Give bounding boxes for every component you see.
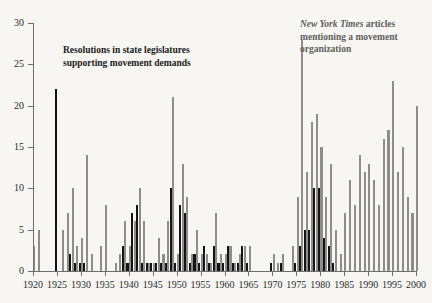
nyt-annotation: New York Times articles mentioning a mov…: [300, 18, 428, 56]
y-tick-label-5: 5: [0, 225, 24, 235]
bar-nyt_articles-1944: [148, 263, 150, 271]
bar-nyt_articles-1938: [119, 254, 121, 271]
y-tick-10: [28, 188, 33, 189]
bar-nyt_articles-1987: [354, 205, 356, 271]
y-tick-5: [28, 230, 33, 231]
bar-nyt_articles-1958: [215, 213, 217, 271]
bar-nyt_articles-1991: [373, 180, 375, 271]
x-tick-1965: [248, 271, 249, 276]
bar-nyt_articles-1959: [220, 254, 222, 271]
bar-nyt_articles-2000: [416, 106, 418, 271]
bar-nyt_articles-1941: [134, 221, 136, 271]
bar-nyt_articles-1999: [411, 213, 413, 271]
bar-nyt_articles-1970: [273, 254, 275, 271]
x-tick-1970: [272, 271, 273, 276]
x-tick-1980: [320, 271, 321, 276]
bar-nyt_articles-1964: [244, 246, 246, 271]
x-tick-1995: [392, 271, 393, 276]
y-tick-label-20: 20: [0, 101, 24, 111]
bar-nyt_articles-1956: [206, 254, 208, 271]
bar-nyt_articles-1928: [72, 188, 74, 271]
x-tick-1950: [177, 271, 178, 276]
bar-nyt_articles-1962: [234, 263, 236, 271]
bar-nyt_articles-1947: [162, 254, 164, 271]
y-tick-label-25: 25: [0, 59, 24, 69]
bar-nyt_articles-1980: [320, 147, 322, 271]
bar-nyt_articles-1996: [397, 172, 399, 271]
resolutions-annotation: Resolutions in state legislatures suppor…: [63, 44, 195, 69]
bar-nyt_articles-1943: [143, 221, 145, 271]
bar-nyt_articles-1989: [364, 172, 366, 271]
y-tick-label-10: 10: [0, 183, 24, 193]
bar-nyt_articles-1935: [105, 205, 107, 271]
x-tick-1955: [201, 271, 202, 276]
bar-nyt_articles-1988: [359, 155, 361, 271]
bar-nyt_articles-1995: [392, 81, 394, 271]
bar-nyt_articles-1926: [62, 230, 64, 271]
bar-nyt_articles-1984: [340, 254, 342, 271]
bar-nyt_articles-1979: [316, 114, 318, 271]
bar-nyt_articles-1929: [76, 246, 78, 271]
y-tick-label-30: 30: [0, 18, 24, 28]
bar-nyt_articles-1981: [325, 197, 327, 271]
bar-nyt_articles-1983: [335, 230, 337, 271]
bar-nyt_articles-1951: [182, 164, 184, 271]
y-tick-30: [28, 23, 33, 24]
x-tick-1920: [33, 271, 34, 276]
bar-nyt_articles-1982: [330, 164, 332, 271]
bar-nyt_articles-1957: [210, 263, 212, 271]
bar-nyt_articles-1954: [196, 230, 198, 271]
bar-nyt_articles-1952: [186, 197, 188, 271]
nyt-annotation-title: New York Times: [300, 19, 363, 29]
y-axis-line: [33, 23, 34, 272]
x-tick-label-2000: 2000: [396, 279, 432, 290]
bar-nyt_articles-1971: [277, 263, 279, 271]
bar-resolutions-1925: [55, 89, 57, 271]
y-tick-label-0: 0: [0, 266, 24, 276]
bar-nyt_articles-1937: [115, 263, 117, 271]
x-tick-1945: [153, 271, 154, 276]
bar-nyt_articles-1963: [239, 254, 241, 271]
bar-nyt_articles-1994: [387, 130, 389, 271]
bar-nyt_articles-1930: [81, 238, 83, 271]
bar-nyt_articles-1965: [249, 246, 251, 271]
bar-nyt_articles-1945: [153, 263, 155, 271]
bar-nyt_articles-1993: [383, 139, 385, 271]
y-tick-20: [28, 106, 33, 107]
bar-nyt_articles-1940: [129, 246, 131, 271]
bar-nyt_articles-1949: [172, 97, 174, 271]
bar-nyt_articles-1931: [86, 155, 88, 271]
x-tick-1940: [129, 271, 130, 276]
bar-nyt_articles-1961: [229, 246, 231, 271]
bar-nyt_articles-1950: [177, 254, 179, 271]
bar-nyt_articles-1953: [191, 254, 193, 271]
bar-nyt_articles-1997: [402, 147, 404, 271]
bar-nyt_articles-1934: [100, 246, 102, 271]
x-tick-1975: [296, 271, 297, 276]
y-tick-15: [28, 147, 33, 148]
bar-nyt_articles-1985: [344, 213, 346, 271]
x-tick-1935: [105, 271, 106, 276]
bar-chart: 051015202530 192019251930193519401945195…: [0, 0, 432, 303]
bar-nyt_articles-1927: [67, 213, 69, 271]
bar-nyt_articles-1942: [139, 188, 141, 271]
bar-nyt_articles-1986: [349, 180, 351, 271]
y-tick-25: [28, 64, 33, 65]
bar-nyt_articles-1998: [407, 197, 409, 271]
bar-nyt_articles-1939: [124, 221, 126, 271]
bar-nyt_articles-1948: [167, 221, 169, 271]
x-tick-1990: [368, 271, 369, 276]
bar-nyt_articles-1975: [297, 197, 299, 271]
bar-nyt_articles-1932: [91, 254, 93, 271]
bar-nyt_articles-1946: [158, 238, 160, 271]
x-tick-1930: [81, 271, 82, 276]
x-tick-1960: [225, 271, 226, 276]
bar-nyt_articles-1921: [38, 230, 40, 271]
x-tick-2000: [416, 271, 417, 276]
bar-nyt_articles-1955: [201, 254, 203, 271]
bar-nyt_articles-1972: [282, 254, 284, 271]
bar-nyt_articles-1974: [292, 246, 294, 271]
bar-nyt_articles-1960: [225, 254, 227, 271]
x-tick-1985: [344, 271, 345, 276]
bar-nyt_articles-1978: [311, 122, 313, 271]
